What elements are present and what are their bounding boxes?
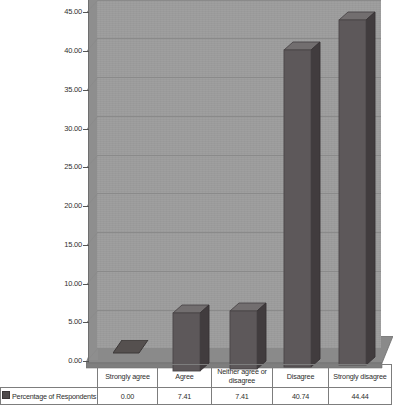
y-tick-20 <box>83 206 89 207</box>
table-value-disagree: 40.74 <box>273 388 329 405</box>
y-tick-15 <box>83 245 89 246</box>
table-header-row: Strongly agree Agree Neither agree or di… <box>1 365 392 388</box>
legend-entry: Percentage of Respondents <box>1 388 98 405</box>
y-axis-label-5: 5.00 <box>38 317 82 327</box>
y-axis-label-30: 30.00 <box>38 124 82 134</box>
y-axis-line <box>88 0 89 363</box>
y-axis-label-text: 25.00 <box>40 162 82 171</box>
table-corner-cell <box>1 365 98 388</box>
y-axis-label-10: 10.00 <box>38 279 82 289</box>
y-axis-label-text: 30.00 <box>40 124 82 133</box>
table-header-agree: Agree <box>158 365 212 388</box>
y-axis-label-text: 15.00 <box>40 240 82 249</box>
table-header-disagree: Disagree <box>273 365 329 388</box>
y-tick-5 <box>83 322 89 323</box>
bar-agree <box>173 305 199 363</box>
legend-label: Percentage of Respondents <box>12 392 96 401</box>
table-value-neither-agree-or-disagree: 7.41 <box>212 388 273 405</box>
table-row: Percentage of Respondents 0.00 7.41 7.41… <box>1 388 392 405</box>
y-axis-label-40: 40.00 <box>38 46 82 56</box>
y-axis-label-20: 20.00 <box>38 201 82 211</box>
chart-plot-area: 45.00 40.00 35.00 30.00 25.00 20.00 15.0… <box>0 0 393 372</box>
legend-square-icon <box>2 391 10 399</box>
y-axis-label-35: 35.00 <box>38 85 82 95</box>
y-axis-label-45: 45.00 <box>38 7 82 17</box>
y-tick-0 <box>83 361 89 362</box>
bar-disagree <box>284 42 310 359</box>
y-tick-30 <box>83 129 89 130</box>
bar-strongly-disagree <box>339 12 365 357</box>
table-value-strongly-agree: 0.00 <box>98 388 158 405</box>
y-axis-label-25: 25.00 <box>38 162 82 172</box>
chart-page: 45.00 40.00 35.00 30.00 25.00 20.00 15.0… <box>0 0 393 410</box>
bar-strongly-agree <box>113 340 153 360</box>
y-axis-label-text: 5.00 <box>40 317 82 326</box>
y-tick-25 <box>83 167 89 168</box>
y-axis-label-15: 15.00 <box>38 240 82 250</box>
y-axis-label-text: 10.00 <box>40 279 82 288</box>
table-header-neither-agree-or-disagree: Neither agree or disagree <box>212 365 273 388</box>
chart-data-table: Strongly agree Agree Neither agree or di… <box>0 364 392 405</box>
bar-neither-agree-or-disagree <box>230 303 256 361</box>
y-axis-label-text: 40.00 <box>40 46 82 55</box>
table-value-strongly-disagree: 44.44 <box>329 388 392 405</box>
y-tick-45 <box>83 12 89 13</box>
y-axis-label-text: 20.00 <box>40 201 82 210</box>
y-tick-35 <box>83 90 89 91</box>
y-tick-10 <box>83 284 89 285</box>
y-axis-label-text: 35.00 <box>40 85 82 94</box>
table-header-strongly-agree: Strongly agree <box>98 365 158 388</box>
table-header-strongly-disagree: Strongly disagree <box>329 365 392 388</box>
y-axis-label-text: 45.00 <box>40 7 82 16</box>
y-tick-40 <box>83 51 89 52</box>
table-value-agree: 7.41 <box>158 388 212 405</box>
gridline-45 <box>97 0 381 1</box>
